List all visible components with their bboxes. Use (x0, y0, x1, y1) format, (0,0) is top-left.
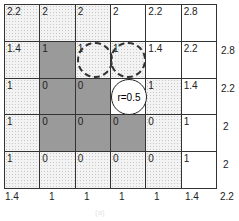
grid-cell: 1 (39, 41, 75, 79)
bottom-label-6: 1.4 (185, 191, 199, 202)
right-label-3: 2 (223, 121, 229, 132)
grid-cell: 0 (110, 151, 146, 189)
grid-cell: 0 (75, 78, 111, 116)
grid-cell: 0 (39, 114, 75, 152)
grid-cell: 1 (4, 78, 40, 116)
grid-cell: 1.4 (181, 78, 217, 116)
grid-cell: 2 (75, 4, 111, 42)
bottom-label-3: 1 (84, 191, 90, 202)
grid-cell: 0 (110, 114, 146, 152)
grid-cell: 0 (39, 78, 75, 116)
grid-cell: 0 (75, 151, 111, 189)
grid-cell: 0 (75, 114, 111, 152)
grid-cell: 1 (181, 114, 217, 152)
right-label-2: 2.2 (221, 83, 235, 94)
grid-cell: 1.4 (145, 41, 181, 79)
right-label-4: 2 (223, 159, 229, 170)
grid-cell: 2.2 (181, 41, 217, 79)
radius-label: r=0.5 (117, 92, 140, 103)
grid-cell: 1 (4, 151, 40, 189)
grid-cell: 2 (110, 4, 146, 42)
dashed-circle-2 (110, 42, 146, 78)
grid-cell: 1 (4, 114, 40, 152)
grid-cell: 2.2 (145, 4, 181, 42)
distance-grid: 2.22222.22.81.41111.42.210011.4100001100… (4, 4, 216, 188)
bottom-label-7: 2.2 (220, 191, 234, 202)
caption: (a) (95, 208, 105, 217)
grid-cell: 0 (39, 151, 75, 189)
grid-cell: 1 (181, 151, 217, 189)
radius-circle: r=0.5 (111, 79, 147, 115)
grid-cell: 0 (145, 151, 181, 189)
grid-cell: 0 (145, 114, 181, 152)
bottom-label-4: 1 (119, 191, 125, 202)
grid-cell: 1 (145, 78, 181, 116)
grid-cell: 1.4 (4, 41, 40, 79)
bottom-label-1: 1.4 (5, 191, 19, 202)
grid-cell: 2.2 (4, 4, 40, 42)
dashed-circle-1 (77, 42, 113, 78)
right-label-1: 2.8 (221, 45, 235, 56)
bottom-label-2: 1 (49, 191, 55, 202)
bottom-label-5: 1 (154, 191, 160, 202)
grid-cell: 2.8 (181, 4, 217, 42)
grid-cell: 2 (39, 4, 75, 42)
